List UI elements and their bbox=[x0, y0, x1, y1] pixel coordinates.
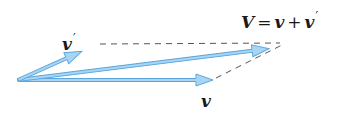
prime-mark: ′ bbox=[73, 32, 76, 46]
sum-symbol: V bbox=[241, 12, 254, 32]
v-symbol: v bbox=[201, 91, 211, 111]
v-prime-symbol: v bbox=[62, 34, 72, 54]
v-label: v bbox=[201, 93, 211, 110]
equals-sign: = bbox=[254, 12, 274, 32]
dashed-line-vprime-to-sum bbox=[100, 43, 280, 44]
v-prime-label: v′ bbox=[62, 33, 76, 53]
term-v-prime: v bbox=[305, 12, 315, 32]
sum-equation-label: V=v+v′ bbox=[241, 11, 318, 31]
term-v: v bbox=[274, 12, 284, 32]
plus-sign: + bbox=[284, 12, 304, 32]
prime-mark: ′ bbox=[315, 10, 318, 24]
